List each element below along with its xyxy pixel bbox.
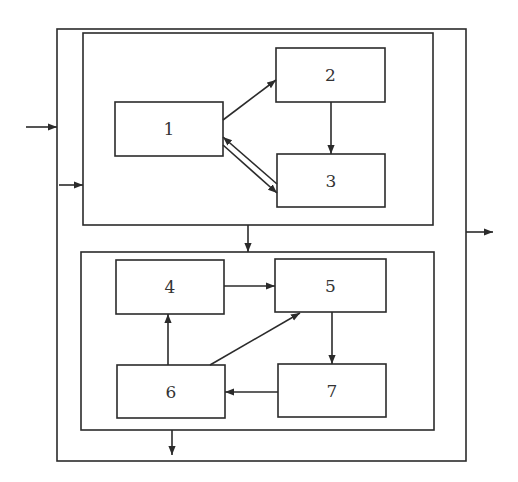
arrow-1-to-2 [223, 80, 276, 120]
block-1: 1 [115, 102, 223, 156]
block-3-label: 3 [326, 171, 337, 191]
block-1-label: 1 [164, 119, 175, 139]
block-3: 3 [277, 154, 385, 207]
block-4: 4 [116, 260, 224, 314]
arrow-3-to-1 [223, 137, 277, 184]
block-6-label: 6 [166, 382, 177, 402]
top-group-box [83, 33, 433, 225]
outer-system-box [57, 29, 466, 461]
block-5-label: 5 [325, 276, 336, 296]
block-6: 6 [117, 365, 225, 418]
block-2-label: 2 [325, 65, 336, 85]
arrow-6-to-5 [210, 313, 300, 365]
block-7-label: 7 [327, 381, 338, 401]
block-5: 5 [275, 259, 386, 312]
block-7: 7 [278, 364, 386, 417]
block-4-label: 4 [165, 277, 176, 297]
block-diagram: 1234567 [0, 0, 518, 482]
block-2: 2 [276, 48, 385, 102]
arrow-1-to-3 [223, 145, 277, 193]
bottom-group-box [81, 252, 434, 430]
